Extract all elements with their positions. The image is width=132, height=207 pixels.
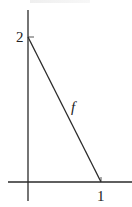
function-plot: 2 1 f — [0, 0, 132, 207]
y-tick-label-2: 2 — [16, 29, 24, 45]
function-label-f: f — [71, 99, 77, 115]
x-tick-label-1: 1 — [97, 188, 105, 204]
function-f-line — [28, 37, 101, 182]
